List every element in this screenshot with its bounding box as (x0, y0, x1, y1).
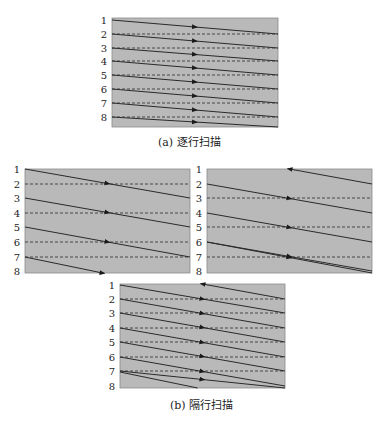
interlaced-combined-panel: 12345678 (109, 280, 285, 392)
row-label: 4 (196, 208, 202, 219)
even-field-panel: 12345678 (196, 164, 372, 277)
caption-progressive: (a) 逐行扫描 (158, 133, 221, 149)
row-label: 1 (14, 164, 20, 175)
row-label: 7 (101, 98, 107, 109)
row-label: 1 (196, 164, 202, 175)
row-label: 1 (101, 15, 107, 26)
row-label: 6 (101, 84, 107, 95)
row-label: 2 (14, 179, 20, 190)
row-label: 4 (109, 323, 115, 334)
row-label: 6 (196, 237, 202, 248)
row-label: 5 (109, 337, 115, 348)
row-label: 5 (14, 222, 20, 233)
row-label: 7 (196, 252, 202, 263)
row-label: 2 (101, 29, 107, 40)
row-label: 8 (14, 266, 20, 277)
row-label: 1 (109, 280, 115, 291)
row-label: 4 (101, 56, 107, 67)
row-label: 8 (101, 112, 107, 123)
caption-interlaced: (b) 隔行扫描 (170, 396, 233, 412)
row-label: 5 (196, 222, 202, 233)
row-label: 2 (196, 179, 202, 190)
scan-diagram: 12345678 12345678 12345678 12345678 (0, 0, 380, 426)
row-label: 7 (14, 252, 20, 263)
odd-field-panel: 12345678 (14, 164, 190, 277)
row-label: 8 (109, 381, 115, 392)
row-label: 7 (109, 366, 115, 377)
row-label: 2 (109, 294, 115, 305)
row-label: 3 (14, 193, 20, 204)
progressive-scan-panel: 12345678 (101, 15, 278, 128)
row-label: 6 (14, 237, 20, 248)
row-label: 3 (196, 193, 202, 204)
row-label: 3 (109, 308, 115, 319)
row-label: 6 (109, 352, 115, 363)
row-label: 5 (101, 70, 107, 81)
row-label: 3 (101, 43, 107, 54)
row-label: 4 (14, 208, 20, 219)
row-label: 8 (196, 266, 202, 277)
